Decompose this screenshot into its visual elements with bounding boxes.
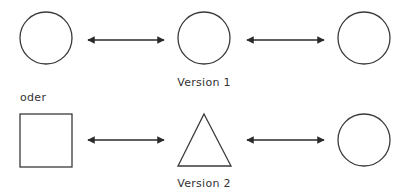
circle-shape-right-2: [338, 114, 390, 166]
circle-shape-right: [338, 12, 390, 64]
circle-shape-middle: [178, 12, 230, 64]
oder-label: oder: [20, 91, 46, 104]
version-2-label: Version 2: [177, 177, 231, 190]
circle-shape-left: [20, 12, 72, 64]
diagram-canvas: [0, 0, 411, 195]
row-version-2: [20, 114, 390, 167]
triangle-shape: [178, 114, 231, 166]
square-shape: [20, 114, 72, 167]
row-version-1: [20, 12, 390, 64]
version-1-label: Version 1: [177, 76, 231, 89]
